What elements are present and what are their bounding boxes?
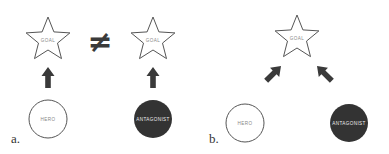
antagonist-arrow-diagonal-icon: [312, 61, 336, 85]
hero-node: HERO: [226, 104, 264, 142]
panel-b-label: b.: [209, 131, 219, 146]
antagonist-arrow-up-icon: [147, 67, 160, 88]
goal-star: GOAL: [275, 15, 319, 57]
hero-label: HERO: [238, 121, 253, 126]
hero-arrow-diagonal-icon: [262, 61, 286, 85]
diagram-canvas: GOAL ≠ GOAL HERO ANTAGONIST a. GOAL: [0, 0, 389, 154]
right-goal-label: GOAL: [146, 38, 160, 43]
panel-a-label: a.: [11, 131, 20, 146]
left-goal-label: GOAL: [41, 38, 55, 43]
panel-a: GOAL ≠ GOAL HERO ANTAGONIST a.: [11, 17, 175, 146]
hero-arrow-up-icon: [42, 67, 55, 88]
antagonist-label: ANTAGONIST: [332, 121, 366, 126]
goal-label: GOAL: [290, 36, 304, 41]
left-goal-star: GOAL: [26, 17, 70, 59]
panel-b: GOAL HERO ANTAGONIST b.: [209, 15, 368, 146]
hero-node: HERO: [29, 100, 67, 138]
hero-label: HERO: [41, 117, 56, 122]
antagonist-node: ANTAGONIST: [134, 100, 172, 138]
right-goal-star: GOAL: [131, 17, 175, 59]
antagonist-label: ANTAGONIST: [136, 117, 170, 122]
antagonist-node: ANTAGONIST: [330, 104, 368, 142]
not-equal-symbol: ≠: [87, 24, 112, 59]
